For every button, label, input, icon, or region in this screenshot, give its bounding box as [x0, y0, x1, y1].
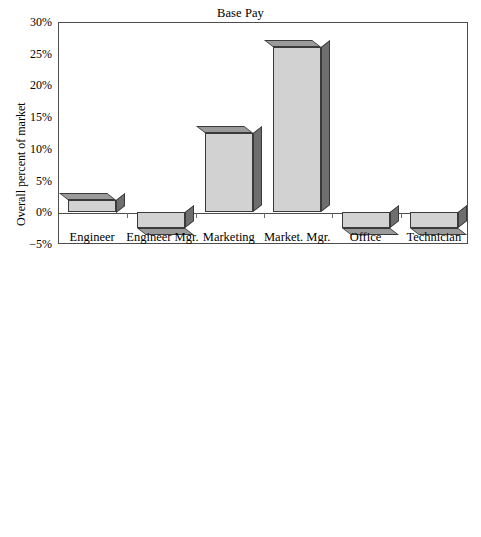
chart-total-compensation: Total Compensation Overall percent of ma…: [0, 268, 481, 537]
y-tick-label: 10%: [2, 143, 52, 155]
bar-engineer: [68, 200, 116, 213]
bar-front-face: [273, 47, 321, 212]
zero-baseline: [59, 213, 467, 214]
y-tick-label: −5%: [2, 238, 52, 250]
bar-front-face: [68, 200, 116, 213]
bar-office: [342, 212, 390, 228]
x-axis-tick: [196, 213, 197, 218]
bar-front-face: [410, 212, 458, 228]
x-axis-tick: [401, 213, 402, 218]
x-category-label: Engineer: [58, 230, 126, 245]
bar-front-face: [342, 212, 390, 228]
bar-side-face: [253, 126, 262, 212]
y-tick-label: 30%: [2, 16, 52, 28]
bar-technician: [410, 212, 458, 228]
chart-base-pay: Base Pay Overall percent of market 30%25…: [0, 0, 481, 268]
bar-market-mgr: [273, 47, 321, 212]
y-tick-label: 5%: [2, 175, 52, 187]
y-tick-label: 15%: [2, 111, 52, 123]
y-tick-label: 20%: [2, 79, 52, 91]
chart-title-base-pay: Base Pay: [0, 6, 481, 21]
bar-front-face: [205, 133, 253, 212]
bar-top-face: [264, 40, 321, 47]
bar-top-face: [59, 193, 116, 200]
x-category-label: Technician: [400, 230, 468, 245]
plot-area-base-pay: [58, 22, 468, 244]
bar-front-face: [137, 212, 185, 228]
x-category-label: Market. Mgr.: [263, 230, 331, 245]
x-category-label: Office: [331, 230, 399, 245]
bar-engineer-mgr: [137, 212, 185, 228]
x-axis-tick: [264, 213, 265, 218]
bar-side-face: [321, 40, 330, 212]
x-category-label: Marketing: [195, 230, 263, 245]
x-axis-tick: [332, 213, 333, 218]
x-axis-tick: [127, 213, 128, 218]
bar-top-face: [196, 126, 253, 133]
x-category-label: Engineer Mgr.: [126, 230, 194, 245]
bar-marketing: [205, 133, 253, 212]
y-tick-label: 0%: [2, 206, 52, 218]
y-tick-label: 25%: [2, 48, 52, 60]
